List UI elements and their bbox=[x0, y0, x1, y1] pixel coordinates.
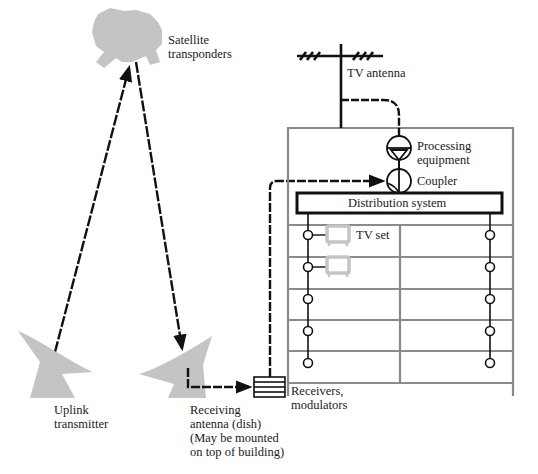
label-uplink: Uplink transmitter bbox=[54, 403, 108, 431]
satellite-to-dish-link bbox=[136, 62, 182, 348]
antenna-to-processing-link bbox=[341, 100, 399, 136]
satellite-icon bbox=[92, 8, 162, 68]
tv-set-icon bbox=[312, 257, 349, 277]
processing-equipment-icon bbox=[387, 136, 411, 160]
label-receivers: Receivers, modulators bbox=[291, 384, 347, 412]
uplink-to-satellite-link bbox=[55, 68, 129, 352]
label-distribution: Distribution system bbox=[348, 196, 446, 210]
coupler-icon bbox=[387, 169, 411, 193]
tv-antenna-icon bbox=[297, 44, 383, 128]
riser-left bbox=[304, 213, 313, 368]
label-coupler: Coupler bbox=[417, 174, 457, 188]
receivers-modulators-icon bbox=[254, 377, 285, 397]
label-receiving: Receiving antenna (dish) (May be mounted… bbox=[190, 403, 284, 459]
label-tv-antenna: TV antenna bbox=[347, 66, 405, 80]
receiving-dish-icon bbox=[139, 336, 212, 398]
label-tv-set: TV set bbox=[356, 228, 389, 242]
label-processing: Processing equipment bbox=[417, 139, 471, 167]
riser-right bbox=[486, 213, 495, 368]
label-satellite: Satellite transponders bbox=[168, 33, 232, 61]
tv-set-icon bbox=[312, 226, 349, 246]
uplink-dish-icon bbox=[18, 331, 93, 398]
